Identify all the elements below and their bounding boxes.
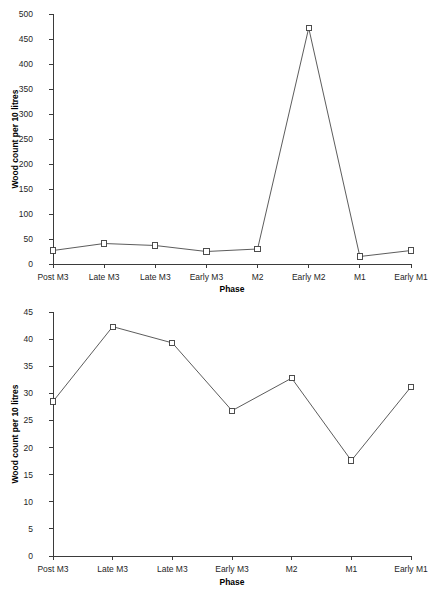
y-axis: 051015202530354045 [24,307,53,561]
y-tick-label: 350 [19,84,33,94]
data-point-marker [110,324,115,329]
series-line [53,327,411,461]
y-tick-label: 50 [24,234,34,244]
x-tick-label: M2 [286,564,298,574]
x-tick-label: Early M3 [190,272,224,282]
y-tick-label: 30 [24,388,34,398]
data-point-marker [357,254,362,259]
x-tick-label: Late M3 [140,272,171,282]
data-point-marker [408,384,413,389]
chart-top-svg: 050100150200250300350400450500Wood count… [0,0,441,300]
x-tick-label: M1 [354,272,366,282]
x-axis: Post M3Late M3Late M3Early M3M2Early M2M… [37,264,428,282]
y-tick-label: 200 [19,159,33,169]
y-tick-label: 300 [19,109,33,119]
data-markers [50,25,413,259]
chart-top-plot: 050100150200250300350400450500Wood count… [10,9,428,294]
data-point-marker [170,340,175,345]
y-tick-label: 25 [24,415,34,425]
figure-root: 050100150200250300350400450500Wood count… [0,0,441,600]
x-tick-label: Early M2 [292,272,326,282]
series-line [53,28,411,257]
data-point-marker [50,399,55,404]
data-markers [50,324,413,463]
y-axis-title: Wood count per 10 litres [10,384,20,483]
y-tick-label: 100 [19,209,33,219]
y-tick-label: 400 [19,59,33,69]
x-tick-label: Late M3 [89,272,120,282]
x-tick-label: Post M3 [37,564,68,574]
data-point-marker [306,25,311,30]
x-tick-label: Early M1 [394,564,428,574]
data-point-marker [255,246,260,251]
data-point-marker [102,241,107,246]
chart-bottom: 051015202530354045Wood count per 10 litr… [0,295,441,600]
x-tick-label: Late M3 [97,564,128,574]
y-tick-label: 20 [24,443,34,453]
data-point-marker [349,458,354,463]
data-point-marker [289,376,294,381]
data-point-marker [153,243,158,248]
y-tick-label: 5 [28,524,33,534]
x-tick-label: Early M3 [215,564,249,574]
data-point-marker [229,408,234,413]
y-axis-title: Wood count per 10 litres [10,89,20,188]
x-axis-title: Phase [219,284,244,294]
y-tick-label: 250 [19,134,33,144]
y-tick-label: 40 [24,334,34,344]
x-tick-label: M1 [345,564,357,574]
y-tick-label: 450 [19,34,33,44]
y-axis: 050100150200250300350400450500 [19,9,53,269]
x-tick-label: M2 [252,272,264,282]
y-tick-label: 35 [24,361,34,371]
x-axis: Post M3Late M3Late M3Early M3M2M1Early M… [37,556,428,574]
data-point-marker [204,249,209,254]
y-tick-label: 500 [19,9,33,19]
chart-top: 050100150200250300350400450500Wood count… [0,0,441,300]
data-point-marker [50,248,55,253]
y-tick-label: 10 [24,497,34,507]
y-tick-label: 150 [19,184,33,194]
x-axis-title: Phase [219,577,244,587]
y-tick-label: 15 [24,470,34,480]
x-tick-label: Late M3 [157,564,188,574]
x-tick-label: Post M3 [37,272,68,282]
y-tick-label: 0 [28,259,33,269]
data-point-marker [408,248,413,253]
chart-bottom-svg: 051015202530354045Wood count per 10 litr… [0,295,441,600]
chart-bottom-plot: 051015202530354045Wood count per 10 litr… [10,307,428,587]
y-tick-label: 45 [24,307,34,317]
y-tick-label: 0 [28,551,33,561]
x-tick-label: Early M1 [394,272,428,282]
